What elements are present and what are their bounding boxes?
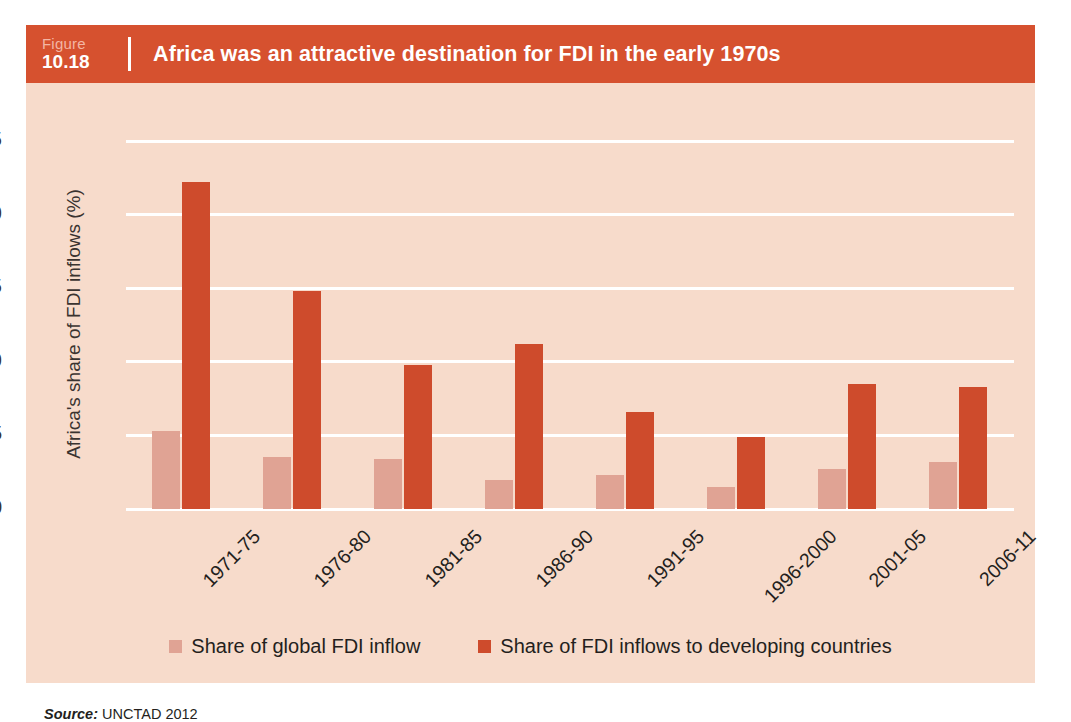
bar-group [485,141,543,509]
legend-label: Share of FDI inflows to developing count… [500,635,891,658]
bar [959,387,987,509]
source-text: UNCTAD 2012 [102,706,198,722]
legend-label: Share of global FDI inflow [191,635,420,658]
bar [818,469,846,509]
gridline [126,213,1014,216]
bar [152,431,180,509]
y-axis-title: Africa's share of FDI inflows (%) [63,174,85,474]
figure-header-bar: Figure 10.18 Africa was an attractive de… [26,25,1035,83]
source-line: Source: UNCTAD 2012 [44,706,198,722]
legend-swatch-icon [478,640,491,653]
x-axis-tick-label: 1981-85 [420,525,487,592]
bar-group [929,141,987,509]
bar [374,459,402,509]
plot-area: 0510152025 1971-751976-801981-851986-901… [126,141,1014,509]
x-axis-tick-label: 1971-75 [198,525,265,592]
y-axis-tick-label: 15 [0,275,2,298]
bar-group [818,141,876,509]
figure-number-block: Figure 10.18 [26,36,128,73]
x-axis-tick-label: 2001-05 [864,525,931,592]
bar-group [596,141,654,509]
legend-entry[interactable]: Share of global FDI inflow [169,635,420,658]
bar [848,384,876,509]
figure-number: 10.18 [42,52,128,73]
y-axis-tick-label: 25 [0,128,2,151]
bar [263,457,291,509]
plot-wrapper: Africa's share of FDI inflows (%) 051015… [26,83,1035,683]
x-axis-tick-label: 1976-80 [309,525,376,592]
bar [737,437,765,509]
gridline [126,287,1014,290]
figure-label-word: Figure [42,36,128,52]
y-axis-tick-label: 10 [0,349,2,372]
bar [707,487,735,509]
bar-group [152,141,210,509]
bar [929,462,957,509]
figure-title: Africa was an attractive destination for… [153,42,781,67]
header-divider [128,37,131,71]
bar [404,365,432,509]
legend-swatch-icon [169,640,182,653]
figure-container: Figure 10.18 Africa was an attractive de… [26,25,1035,683]
bar [182,182,210,509]
legend-entry[interactable]: Share of FDI inflows to developing count… [478,635,891,658]
y-axis-tick-label: 20 [0,202,2,225]
bar [626,412,654,509]
source-label: Source: [44,706,98,722]
bar-group [263,141,321,509]
x-axis-tick-label: 2006-11 [975,525,1041,591]
gridline [126,434,1014,437]
y-axis-tick-label: 0 [0,496,2,519]
x-axis-tick-label: 1986-90 [531,525,598,592]
bar [485,480,513,509]
bar-group [374,141,432,509]
bar [596,475,624,509]
x-axis-tick-label: 1991-95 [642,525,709,592]
gridline [126,508,1014,511]
bar [515,344,543,509]
bar [293,291,321,509]
chart-legend: Share of global FDI inflowShare of FDI i… [26,635,1035,658]
x-axis-tick-label: 1996-2000 [759,525,841,607]
y-axis-tick-label: 5 [0,422,2,445]
bar-group [707,141,765,509]
gridline [126,360,1014,363]
gridline [126,140,1014,143]
